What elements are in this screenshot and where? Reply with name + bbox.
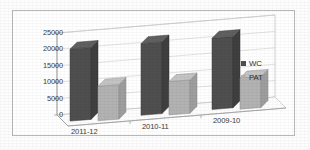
- x-tick-label-2011-12: 2011-12: [71, 127, 98, 136]
- x-tick-label-2010-11: 2010-11: [142, 122, 169, 131]
- chart-legend: WC PAT: [241, 59, 293, 87]
- plot-area: 25000 20000 15000 10000 5000 0 2011-12 2…: [13, 11, 296, 137]
- legend-item-pat: PAT: [241, 73, 293, 82]
- legend-swatch-pat: [241, 75, 246, 80]
- x-tick-label-2009-10: 2009-10: [213, 116, 240, 125]
- chart-figure: 25000 20000 15000 10000 5000 0 2011-12 2…: [0, 0, 310, 150]
- legend-label-pat: PAT: [249, 73, 263, 82]
- chart-frame: 25000 20000 15000 10000 5000 0 2011-12 2…: [12, 10, 295, 136]
- legend-item-wc: WC: [241, 59, 293, 68]
- legend-label-wc: WC: [249, 59, 262, 68]
- legend-swatch-wc: [241, 61, 246, 66]
